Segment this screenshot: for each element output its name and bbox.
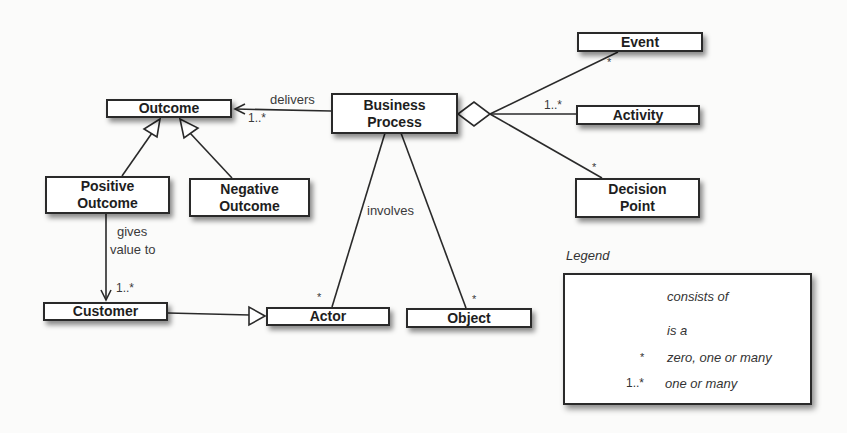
class-outcome: Outcome (106, 99, 232, 118)
legend-star-symbol: * (640, 351, 644, 363)
generalization-triangle-icon (144, 119, 160, 137)
legend-consists-of: consists of (667, 289, 728, 304)
class-object: Object (406, 308, 532, 328)
legend-one-or-many: one or many (665, 376, 737, 391)
class-positive-outcome: Positive Outcome (45, 176, 170, 214)
gives-label: gives (117, 224, 147, 239)
class-customer: Customer (43, 302, 168, 321)
legend-zero-one-many: zero, one or many (667, 350, 772, 365)
class-negative-outcome: Negative Outcome (189, 178, 310, 217)
generalization-triangle-icon (249, 307, 265, 325)
event-multiplicity: * (607, 55, 611, 70)
involves-line-actor (332, 133, 385, 307)
delivers-multiplicity: 1..* (248, 111, 266, 126)
legend-title: Legend (566, 248, 609, 263)
generalization-line-positive (122, 133, 152, 176)
value-to-label: value to (110, 242, 156, 257)
decision-point-multiplicity: * (592, 160, 596, 175)
gives-value-multiplicity: 1..* (116, 281, 134, 296)
generalization-line-negative (190, 133, 232, 178)
involves-line-object (401, 133, 466, 308)
involves-label: involves (367, 203, 414, 218)
generalization-triangle-icon (180, 119, 198, 138)
class-activity: Activity (576, 105, 700, 125)
generalization-line-customer (168, 313, 250, 315)
actor-multiplicity: * (317, 290, 321, 305)
uml-diagram: Outcome Business Process Event Activity … (0, 0, 847, 433)
aggregation-diamond-icon (458, 102, 490, 126)
activity-multiplicity: 1..* (544, 98, 562, 113)
legend-is-a: is a (667, 323, 687, 338)
legend-one-many-symbol: 1..* (626, 376, 644, 390)
class-actor: Actor (266, 307, 390, 326)
class-decision-point: Decision Point (575, 178, 700, 218)
class-business-process: Business Process (331, 93, 458, 134)
delivers-label: delivers (270, 92, 315, 107)
object-multiplicity: * (472, 292, 476, 307)
class-event: Event (577, 32, 703, 52)
